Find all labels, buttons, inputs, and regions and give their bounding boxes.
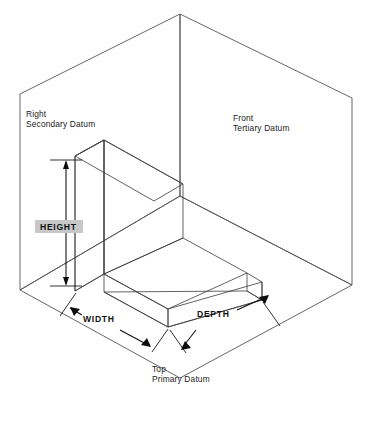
width-dimension-label: WIDTH (83, 314, 115, 324)
secondary-datum-plane (20, 14, 180, 290)
secondary-datum-label-line1: Right (26, 109, 47, 119)
tertiary-datum-label-line1: Front (233, 113, 254, 123)
base-slab-top-face (104, 238, 247, 309)
wall-plate-side-face (75, 140, 104, 291)
depth-left-extension-line (170, 330, 186, 353)
depth-dimension-label: DEPTH (197, 309, 230, 319)
tertiary-datum-label: Front Tertiary Datum (233, 113, 290, 133)
height-arrow-up (63, 160, 69, 169)
width-arrow-left (70, 307, 80, 316)
height-arrow-down (63, 277, 69, 286)
tertiary-datum-label-line2: Tertiary Datum (233, 123, 290, 133)
depth-arrow-left (181, 341, 191, 350)
tertiary-datum-plane (180, 14, 352, 285)
wall-plate-front-face (104, 140, 183, 274)
height-dimension-label: HEIGHT (40, 222, 77, 232)
wall-plate-top-face (75, 140, 183, 201)
secondary-datum-label-line2: Secondary Datum (26, 119, 95, 129)
base-slab-front-edge (168, 282, 262, 327)
depth-right-extension-line (263, 302, 280, 326)
width-dimension: WIDTH (60, 293, 168, 352)
wall-plate-inner-face (75, 140, 104, 291)
datum-frame-diagram: HEIGHT WIDTH (0, 0, 367, 438)
secondary-datum-label: Right Secondary Datum (26, 109, 95, 129)
primary-datum-label-line1: Top (152, 364, 166, 374)
isometric-scene: HEIGHT WIDTH (0, 0, 367, 438)
width-right-extension-line (152, 329, 168, 352)
primary-datum-label-line2: Primary Datum (152, 374, 210, 384)
